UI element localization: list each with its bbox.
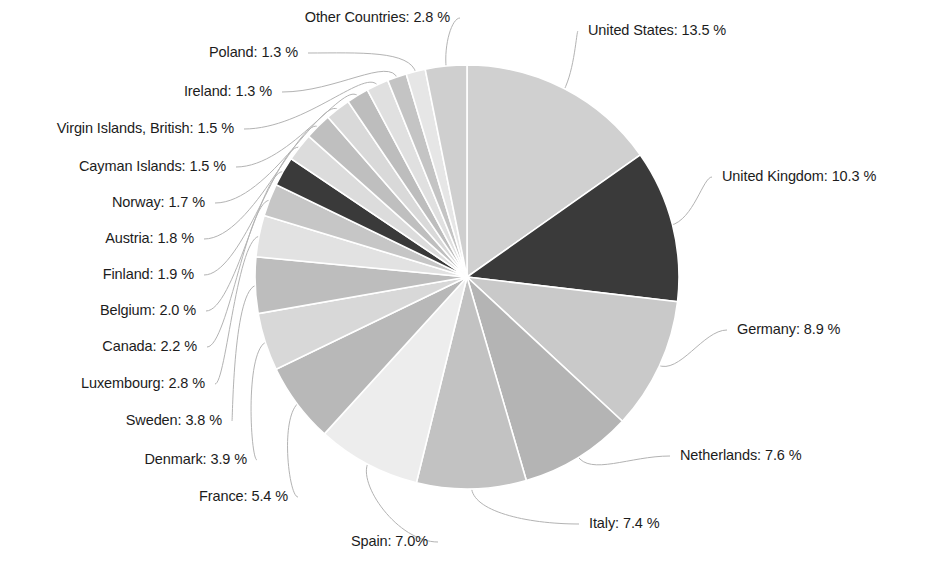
pie-label-france: France: 5.4 % <box>199 489 288 504</box>
pie-label-other-countries: Other Countries: 2.8 % <box>305 10 450 25</box>
leader-line-france <box>288 403 299 497</box>
pie-label-finland: Finland: 1.9 % <box>103 267 194 282</box>
pie-label-denmark: Denmark: 3.9 % <box>144 452 247 467</box>
pie-label-germany: Germany: 8.9 % <box>737 322 840 337</box>
leader-line-other-countries <box>446 18 460 68</box>
pie-label-virgin-islands-british: Virgin Islands, British: 1.5 % <box>57 121 234 136</box>
pie-label-spain: Spain: 7.0% <box>351 534 428 549</box>
pie-label-belgium: Belgium: 2.0 % <box>100 303 196 318</box>
leader-line-italy <box>472 487 580 524</box>
pie-slices <box>255 65 679 489</box>
leader-line-netherlands <box>577 456 670 465</box>
pie-label-canada: Canada: 2.2 % <box>102 339 197 354</box>
pie-label-netherlands: Netherlands: 7.6 % <box>680 448 802 463</box>
leader-line-denmark <box>251 342 267 461</box>
pie-label-austria: Austria: 1.8 % <box>105 231 194 246</box>
pie-label-luxembourg: Luxembourg: 2.8 % <box>81 376 205 391</box>
leader-line-luxembourg <box>215 236 261 384</box>
leader-line-poland <box>308 53 416 73</box>
pie-label-norway: Norway: 1.7 % <box>112 195 205 210</box>
leader-line-united-kingdom <box>671 177 712 225</box>
pie-label-cayman-islands: Cayman Islands: 1.5 % <box>79 159 226 174</box>
pie-label-poland: Poland: 1.3 % <box>209 45 298 60</box>
pie-label-sweden: Sweden: 3.8 % <box>126 413 222 428</box>
pie-label-italy: Italy: 7.4 % <box>589 516 660 531</box>
pie-label-united-states: United States: 13.5 % <box>588 23 726 38</box>
leader-line-united-states <box>564 31 578 91</box>
leader-line-sweden <box>232 285 257 421</box>
pie-label-ireland: Ireland: 1.3 % <box>184 84 272 99</box>
pie-label-united-kingdom: United Kingdom: 10.3 % <box>722 169 876 184</box>
pie-chart-figure: United States: 13.5 %United Kingdom: 10.… <box>0 0 925 562</box>
